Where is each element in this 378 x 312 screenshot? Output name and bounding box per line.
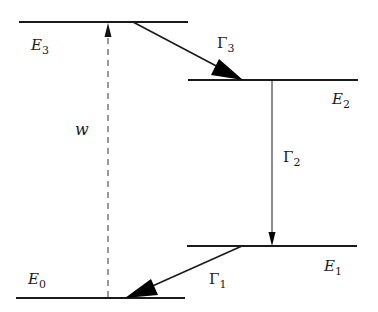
decay-gamma1-label: Γ1 xyxy=(209,272,226,287)
level-e0-subscript: 0 xyxy=(39,278,46,291)
level-e3-subscript: 3 xyxy=(42,44,49,57)
level-e2-symbol: E xyxy=(332,90,343,108)
gamma2-subscript: 2 xyxy=(293,156,300,169)
decay-gamma2-arrowhead-icon xyxy=(269,232,276,246)
energy-diagram-canvas xyxy=(0,0,378,312)
level-e0-label: E0 xyxy=(28,272,46,287)
level-e0-symbol: E xyxy=(28,270,39,288)
gamma2-symbol: Γ xyxy=(283,148,293,166)
pump-w-arrowhead-icon xyxy=(105,23,112,37)
level-e2-label: E2 xyxy=(332,92,350,107)
decay-gamma2-label: Γ2 xyxy=(283,150,300,165)
pump-w-symbol: w xyxy=(75,120,89,139)
pump-w-label: w xyxy=(75,122,89,138)
level-e1-symbol: E xyxy=(324,257,335,275)
gamma1-symbol: Γ xyxy=(209,270,219,288)
level-e2-subscript: 2 xyxy=(343,98,350,111)
level-e1-label: E1 xyxy=(324,259,342,274)
decay-gamma3-label: Γ3 xyxy=(217,36,234,51)
decay-gamma3-arrow-shaft xyxy=(133,22,222,69)
decay-gamma1-arrow-shaft xyxy=(148,246,242,288)
decay-gamma1-arrowhead-icon xyxy=(125,279,158,298)
decay-gamma3-arrowhead-icon xyxy=(211,59,243,80)
gamma3-symbol: Γ xyxy=(217,34,227,52)
gamma1-subscript: 1 xyxy=(219,278,226,291)
level-e3-symbol: E xyxy=(31,36,42,54)
gamma3-subscript: 3 xyxy=(227,42,234,55)
level-e1-subscript: 1 xyxy=(335,265,342,278)
level-e3-label: E3 xyxy=(31,38,49,53)
